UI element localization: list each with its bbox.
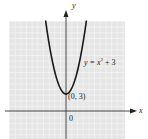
- origin-label: 0: [69, 114, 73, 123]
- y-axis-arrow-icon: [64, 10, 69, 17]
- x-axis-arrow-icon: [130, 109, 137, 114]
- vertex-point: [65, 93, 67, 95]
- equation-label: y = x2 + 3: [84, 57, 116, 67]
- graph-canvas: [0, 0, 148, 139]
- grid-area: [9, 21, 125, 139]
- y-axis-label: y: [72, 1, 76, 10]
- vertex-label: (0, 3): [68, 92, 85, 101]
- x-axis-label: x: [139, 106, 143, 115]
